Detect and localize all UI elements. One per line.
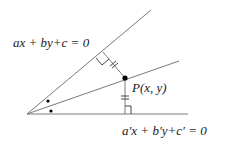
right-angle-mark-lower <box>125 106 131 114</box>
angle-dot-lower <box>49 109 52 112</box>
upper-line <box>27 10 151 114</box>
right-angle-mark-upper <box>96 58 109 65</box>
point-p <box>122 75 127 80</box>
point-label: P(x, y) <box>131 80 167 95</box>
line1-equation-label: ax + by+c = 0 <box>13 35 90 50</box>
angle-dot-upper <box>46 99 49 102</box>
angle-bisector-diagram: ax + by+c = 0 P(x, y) a′x + b′y+c′ = 0 <box>0 0 230 144</box>
perpendicular-to-upper-line <box>103 52 125 78</box>
line2-equation-label: a′x + b′y+c′ = 0 <box>122 123 207 138</box>
